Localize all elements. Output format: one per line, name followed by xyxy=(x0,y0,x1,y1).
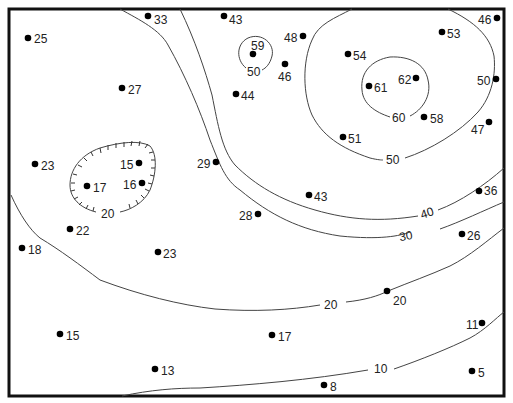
point-marker xyxy=(321,382,328,389)
point-label: 62 xyxy=(398,73,412,87)
contour-label: 30 xyxy=(398,228,414,244)
point-marker xyxy=(139,180,146,187)
point-marker xyxy=(345,51,352,58)
point-label: 47 xyxy=(471,123,485,137)
point-label: 13 xyxy=(161,364,175,378)
point-label: 23 xyxy=(41,159,55,173)
point-label: 33 xyxy=(154,13,168,27)
point-label: 23 xyxy=(163,247,177,261)
contour-label: 50 xyxy=(386,153,400,167)
point-label: 50 xyxy=(477,74,491,88)
point-marker xyxy=(384,288,391,295)
contour-label: 40 xyxy=(418,204,435,222)
point-marker xyxy=(486,119,493,126)
point-label: 48 xyxy=(284,31,298,45)
contour-map: 50 60 50 40 30 20 10 20 25 33 43 59 48 4… xyxy=(0,0,513,403)
point-label: 58 xyxy=(430,112,444,126)
point-marker xyxy=(306,192,313,199)
point-label: 22 xyxy=(76,224,90,238)
point-marker xyxy=(469,368,476,375)
point-label: 61 xyxy=(374,81,388,95)
contour-label: 20 xyxy=(324,298,338,312)
point-label: 18 xyxy=(28,243,42,257)
point-label: 46 xyxy=(478,13,492,27)
point-marker xyxy=(300,33,307,40)
point-marker xyxy=(413,75,420,82)
point-label: 5 xyxy=(478,366,485,380)
point-marker xyxy=(439,29,446,36)
point-label: 54 xyxy=(353,49,367,63)
point-marker xyxy=(494,15,501,22)
point-label: 27 xyxy=(128,83,142,97)
point-marker xyxy=(340,134,347,141)
point-marker xyxy=(233,91,240,98)
point-label: 51 xyxy=(348,132,362,146)
point-marker xyxy=(119,85,126,92)
point-marker xyxy=(421,114,428,121)
point-marker xyxy=(57,331,64,338)
point-label: 43 xyxy=(314,190,328,204)
point-label: 25 xyxy=(34,32,48,46)
contour-label: 10 xyxy=(374,362,388,376)
contour-label: 60 xyxy=(392,111,406,125)
point-marker xyxy=(136,160,143,167)
point-label: 43 xyxy=(229,13,243,27)
point-marker xyxy=(221,13,228,20)
point-marker xyxy=(32,161,39,168)
point-label: 29 xyxy=(197,157,211,171)
point-label: 28 xyxy=(239,209,253,223)
contour-label: 20 xyxy=(101,207,115,221)
point-marker xyxy=(19,245,26,252)
point-marker xyxy=(213,159,220,166)
point-label: 20 xyxy=(393,294,407,308)
point-label: 59 xyxy=(251,39,265,53)
point-marker xyxy=(152,366,159,373)
point-label: 11 xyxy=(466,318,479,332)
point-label: 17 xyxy=(278,330,292,344)
point-marker xyxy=(145,13,152,20)
point-label: 26 xyxy=(467,229,481,243)
point-label: 46 xyxy=(278,70,292,84)
point-label: 53 xyxy=(447,27,461,41)
point-marker xyxy=(479,320,486,327)
point-label: 44 xyxy=(241,89,255,103)
point-marker xyxy=(476,188,483,195)
point-marker xyxy=(155,249,162,256)
point-marker xyxy=(282,61,289,68)
depression-contour-20 xyxy=(70,142,155,212)
point-marker xyxy=(255,211,262,218)
contour-label: 50 xyxy=(247,65,261,79)
point-label: 17 xyxy=(93,181,107,195)
point-marker xyxy=(493,76,500,83)
point-label: 16 xyxy=(123,178,137,192)
point-marker xyxy=(67,226,74,233)
contour-line-10-b xyxy=(394,312,504,369)
point-marker xyxy=(25,35,32,42)
point-label: 36 xyxy=(484,184,498,198)
point-label: 15 xyxy=(66,329,80,343)
point-marker xyxy=(84,183,91,190)
point-marker xyxy=(366,83,373,90)
point-marker xyxy=(269,332,276,339)
point-marker xyxy=(459,231,466,238)
contour-line-30-right xyxy=(440,202,504,229)
point-label: 8 xyxy=(330,380,337,394)
point-label: 15 xyxy=(120,158,134,172)
contour-line-30-left xyxy=(120,9,410,238)
